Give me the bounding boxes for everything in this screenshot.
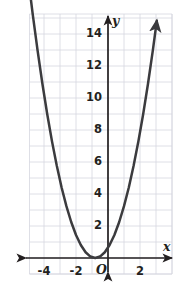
x-axis-label: x: [163, 241, 170, 254]
graph-canvas: [0, 0, 182, 294]
x-tick-label: -2: [56, 266, 96, 278]
y-tick-label: 10: [86, 92, 102, 104]
y-tick-label: 4: [94, 188, 102, 200]
horizontal-gridlines: [30, 14, 173, 274]
y-tick-label: 2: [94, 220, 102, 232]
y-axis-label: y: [112, 15, 119, 28]
parabola-graph-figure: 2468101214-4-22 y x O: [0, 0, 182, 294]
y-tick-label: 8: [94, 124, 102, 136]
y-tick-label: 12: [86, 60, 102, 72]
y-tick-label: 6: [94, 156, 102, 168]
gridlines: [30, 14, 173, 274]
axes: [26, 16, 172, 272]
x-tick-label: 2: [120, 266, 160, 278]
y-tick-label: 14: [86, 28, 102, 40]
vertical-gridlines: [30, 14, 173, 274]
origin-label: O: [96, 264, 107, 277]
